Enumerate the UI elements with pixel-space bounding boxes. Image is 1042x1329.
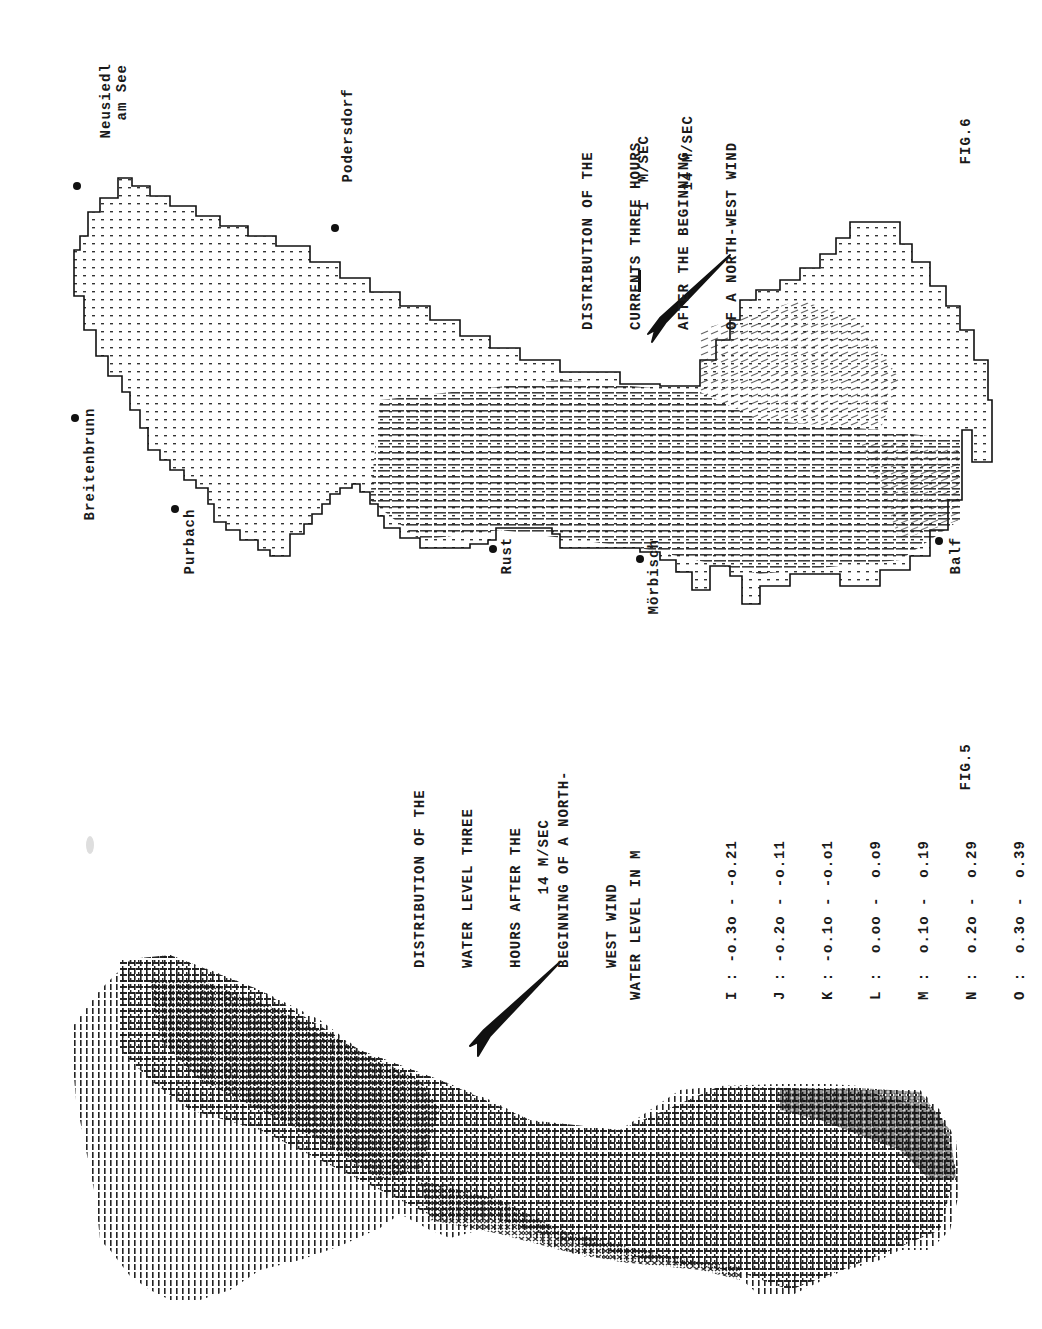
figure5-wind-speed: 14 M/SEC <box>520 819 568 932</box>
water-level-legend: WATER LEVEL IN M I : -o.3o - -o.21 J : -… <box>596 840 1042 1000</box>
water-level-map <box>0 0 1042 1329</box>
legend-row: M : o.1o - o.19 <box>916 840 932 1000</box>
wind-arrow-fig5 <box>470 962 560 1056</box>
legend-title: WATER LEVEL IN M <box>628 840 644 1000</box>
legend-row: J : -o.2o - -o.11 <box>772 840 788 1000</box>
legend-row: I : -o.3o - -o.21 <box>724 840 740 1000</box>
legend-row: N : o.2o - o.29 <box>964 840 980 1000</box>
figure5-label: FIG.5 <box>942 743 990 828</box>
legend-row: L : o.oo - o.o9 <box>868 840 884 1000</box>
legend-row: O : o.3o - o.39 <box>1012 840 1028 1000</box>
legend-row: K : -o.1o - -o.o1 <box>820 840 836 1000</box>
